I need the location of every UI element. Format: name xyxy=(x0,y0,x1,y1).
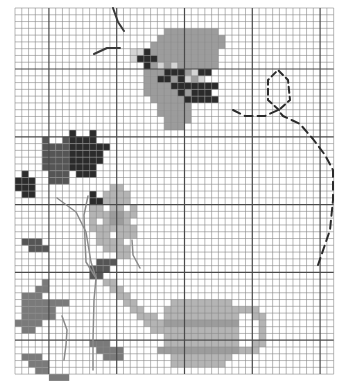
spout-line xyxy=(132,240,140,268)
leaf-bottom-mid xyxy=(90,340,124,360)
cross-stitch-pattern: Cross-stitch pattern: butterfly, flowers… xyxy=(0,0,346,390)
flight-path xyxy=(233,110,333,265)
antenna-top xyxy=(113,8,124,31)
stem-main xyxy=(93,278,96,370)
can-stripe-top xyxy=(164,320,239,327)
